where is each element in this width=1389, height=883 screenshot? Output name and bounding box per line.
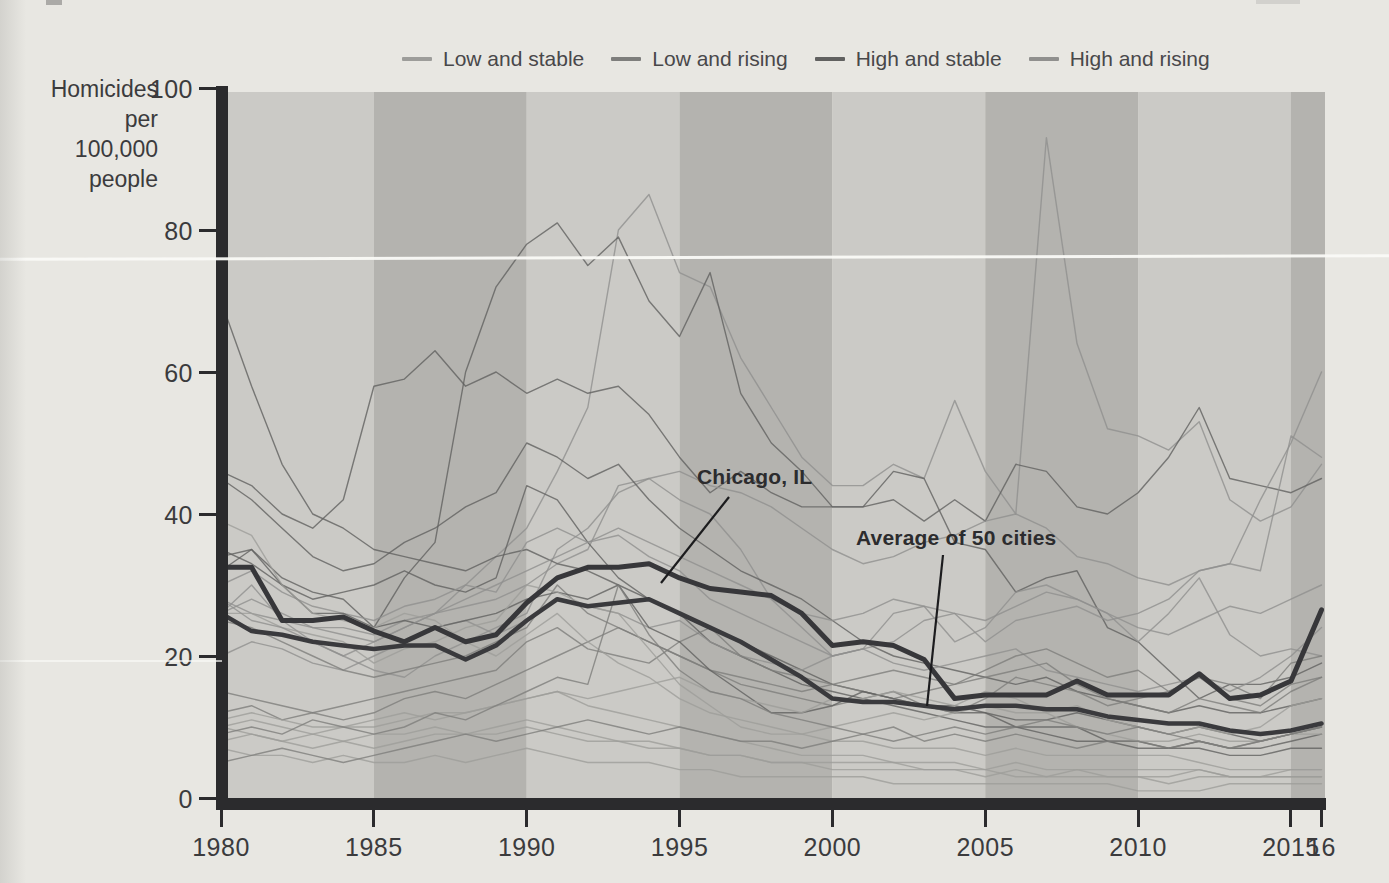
x-tick-label: 1980 bbox=[176, 833, 266, 862]
y-axis-line bbox=[216, 86, 228, 810]
y-tick-mark bbox=[199, 655, 216, 658]
y-tick-label: 100 bbox=[0, 75, 193, 104]
legend-item-low-rising: Low and rising bbox=[611, 47, 787, 71]
x-tick-mark bbox=[372, 810, 375, 827]
x-tick-label: 1985 bbox=[329, 833, 419, 862]
legend-label: Low and rising bbox=[652, 47, 787, 71]
x-tick-mark bbox=[1289, 810, 1292, 827]
y-tick-label: 0 bbox=[0, 785, 193, 814]
y-tick-mark bbox=[199, 87, 216, 90]
y-tick-mark bbox=[199, 797, 216, 800]
x-tick-mark bbox=[831, 810, 834, 827]
legend: Low and stable Low and rising High and s… bbox=[402, 47, 1210, 71]
y-tick-mark bbox=[199, 371, 216, 374]
x-tick-label: 2005 bbox=[940, 833, 1030, 862]
x-axis-line bbox=[216, 798, 1326, 810]
x-tick-mark bbox=[1320, 810, 1323, 827]
y-tick-mark bbox=[199, 229, 216, 232]
x-tick-label: 1995 bbox=[635, 833, 725, 862]
x-tick-label: 2010 bbox=[1093, 833, 1183, 862]
x-tick-label: 2000 bbox=[787, 833, 877, 862]
scan-crease-artifact bbox=[0, 660, 222, 662]
x-tick-mark bbox=[984, 810, 987, 827]
scanned-chart-page: Homicides per 100,000 people Low and sta… bbox=[0, 0, 1389, 883]
legend-item-low-stable: Low and stable bbox=[402, 47, 584, 71]
x-tick-label: 16 bbox=[1277, 833, 1367, 862]
line-swatch-icon bbox=[815, 57, 845, 61]
scan-speck-artifact bbox=[46, 0, 62, 5]
legend-item-high-rising: High and rising bbox=[1029, 47, 1210, 71]
page-curl-shadow bbox=[0, 0, 26, 883]
legend-label: Low and stable bbox=[443, 47, 584, 71]
line-swatch-icon bbox=[611, 57, 641, 61]
homicide-rate-line-chart bbox=[0, 0, 1389, 883]
y-tick-label: 40 bbox=[0, 501, 193, 530]
y-tick-label: 60 bbox=[0, 359, 193, 388]
line-swatch-icon bbox=[402, 57, 432, 61]
y-tick-mark bbox=[199, 513, 216, 516]
scan-speck-artifact bbox=[1256, 0, 1300, 4]
legend-label: High and rising bbox=[1070, 47, 1210, 71]
annotation-chicago: Chicago, IL bbox=[697, 465, 812, 489]
x-tick-mark bbox=[1137, 810, 1140, 827]
line-swatch-icon bbox=[1029, 57, 1059, 61]
y-tick-label: 80 bbox=[0, 217, 193, 246]
legend-label: High and stable bbox=[856, 47, 1002, 71]
x-tick-mark bbox=[678, 810, 681, 827]
x-tick-mark bbox=[220, 810, 223, 827]
x-tick-mark bbox=[525, 810, 528, 827]
annotation-average: Average of 50 cities bbox=[856, 526, 1057, 550]
x-tick-label: 1990 bbox=[482, 833, 572, 862]
y-tick-label: 20 bbox=[0, 643, 193, 672]
legend-item-high-stable: High and stable bbox=[815, 47, 1002, 71]
